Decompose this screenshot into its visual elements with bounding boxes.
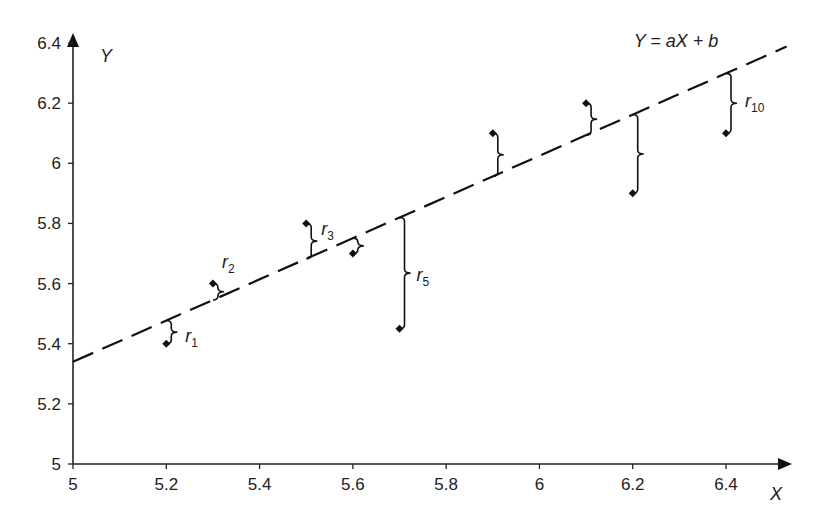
residual-brace [493,133,504,176]
residual-brace [633,115,644,194]
data-point-marker [489,129,497,137]
residual-brace [166,321,177,344]
residual-braces [166,73,737,343]
y-tick-label: 5.6 [37,275,61,294]
data-points [162,99,730,348]
x-tick-label: 5 [68,475,77,494]
y-axis-arrow-icon [67,33,79,47]
data-point-marker [209,280,217,288]
x-axis-arrow-icon [778,458,792,470]
residual-label-r2: r2 [222,252,235,276]
data-point-marker [162,340,170,348]
fit-line [73,47,787,362]
data-point-marker [582,99,590,107]
data-point-marker [722,129,730,137]
residual-scatter-chart: 55.25.45.65.866.26.455.25.45.65.866.26.4… [0,0,827,530]
residual-label-r1: r1 [185,326,198,350]
labels: Y = aX + br1r2r3r5r10 [185,31,764,350]
fit-equation-label: Y = aX + b [634,31,719,51]
y-tick-label: 6.4 [37,34,61,53]
y-tick-label: 5.8 [37,214,61,233]
residual-brace [586,103,597,135]
y-tick-label: 5.2 [37,395,61,414]
residual-label-r3: r3 [321,219,334,243]
y-axis-title: Y [100,46,114,66]
x-tick-label: 5.6 [341,475,365,494]
residual-label-r10: r10 [745,91,765,115]
y-tick-label: 6.2 [37,94,61,113]
x-axis-title: X [769,484,783,504]
data-point-marker [396,325,404,333]
x-tick-label: 5.8 [434,475,458,494]
x-tick-label: 5.4 [248,475,272,494]
x-tick-label: 6 [535,475,544,494]
y-tick-label: 6 [52,154,61,173]
data-point-marker [629,189,637,197]
x-tick-label: 5.2 [154,475,178,494]
data-point-marker [302,219,310,227]
residual-brace [213,284,224,300]
x-tick-label: 6.2 [621,475,645,494]
data-point-marker [349,250,357,258]
axes: 55.25.45.65.866.26.455.25.45.65.866.26.4… [37,33,792,504]
residual-brace [726,73,737,133]
y-tick-label: 5.4 [37,335,61,354]
residual-brace [400,218,411,329]
x-tick-label: 6.4 [714,475,738,494]
regression-line [73,47,787,362]
y-tick-label: 5 [52,455,61,474]
residual-label-r5: r5 [417,265,430,289]
